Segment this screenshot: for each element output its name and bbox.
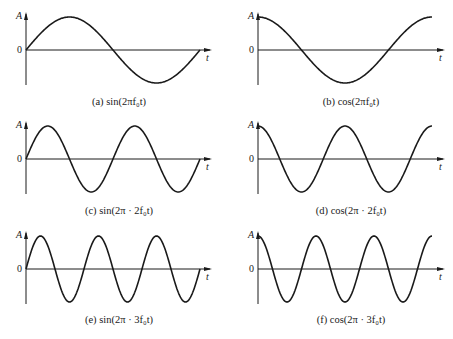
panel-a (24, 12, 212, 85)
y-axis-arrow-icon (24, 121, 28, 129)
waveform-figure (0, 0, 453, 339)
panel-caption: (e) sin(2π · 3f₀t) (85, 314, 153, 325)
panel-f (256, 231, 445, 304)
y-axis-label: A (248, 10, 254, 21)
y-axis-label: A (16, 10, 22, 21)
x-axis-label: t (439, 271, 442, 282)
y-axis-arrow-icon (24, 231, 28, 239)
panel-e (24, 231, 212, 304)
zero-label: 0 (249, 153, 254, 164)
zero-label: 0 (17, 44, 22, 55)
panel-c (24, 121, 212, 194)
zero-label: 0 (17, 153, 22, 164)
panel-caption: (c) sin(2π · 2f₀t) (85, 205, 153, 216)
x-axis-label: t (206, 161, 209, 172)
x-axis-label: t (439, 161, 442, 172)
x-axis-label: t (439, 52, 442, 63)
panel-b (256, 12, 445, 85)
y-axis-label: A (248, 229, 254, 240)
zero-label: 0 (249, 263, 254, 274)
panel-caption: (d) cos(2π · 2f₀t) (316, 205, 386, 216)
panel-d (256, 121, 445, 194)
y-axis-label: A (16, 119, 22, 130)
panel-caption: (a) sin(2πf₀t) (92, 96, 146, 107)
y-axis-arrow-icon (256, 121, 260, 129)
zero-label: 0 (17, 263, 22, 274)
zero-label: 0 (249, 44, 254, 55)
y-axis-arrow-icon (256, 231, 260, 239)
y-axis-arrow-icon (24, 12, 28, 20)
x-axis-label: t (206, 52, 209, 63)
y-axis-label: A (248, 119, 254, 130)
x-axis-label: t (206, 271, 209, 282)
y-axis-arrow-icon (256, 12, 260, 20)
y-axis-label: A (16, 229, 22, 240)
panel-caption: (b) cos(2πf₀t) (323, 96, 379, 107)
panel-caption: (f) cos(2π · 3f₀t) (317, 314, 386, 325)
